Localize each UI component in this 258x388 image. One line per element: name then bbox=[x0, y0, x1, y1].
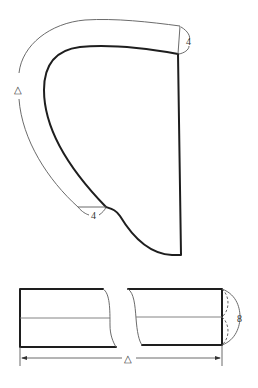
facing-outer-edge-lower bbox=[19, 99, 78, 207]
top-width-label: 4 bbox=[186, 36, 191, 47]
top-width-arc-lower bbox=[179, 46, 189, 54]
lower-length-label: △ bbox=[124, 353, 132, 364]
arrow-right-icon bbox=[215, 356, 221, 360]
pattern-diagram: 4 4 △ 8 △ bbox=[0, 0, 258, 388]
top-width-line bbox=[178, 26, 180, 54]
arrow-left-icon bbox=[21, 356, 27, 360]
upper-length-label: △ bbox=[14, 84, 22, 95]
bottom-width-arc-left bbox=[78, 207, 89, 215]
width-label: 8 bbox=[237, 313, 242, 324]
bottom-width-label: 4 bbox=[91, 210, 96, 221]
upper-pattern-piece bbox=[19, 19, 190, 255]
main-shape-outline bbox=[44, 46, 181, 255]
bottom-width-arc-right bbox=[99, 207, 106, 215]
